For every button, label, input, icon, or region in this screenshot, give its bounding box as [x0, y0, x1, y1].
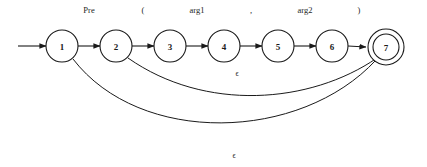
automaton-diagram: 1 2 3 4 5 6 7 Pre ( arg1: [0, 0, 427, 167]
state-label-3: 3: [168, 42, 173, 52]
state-node-1[interactable]: 1: [46, 30, 78, 62]
epsilon-edges: [73, 58, 377, 123]
state-label-6: 6: [330, 42, 335, 52]
state-label-5: 5: [276, 42, 281, 52]
transition-label-arg2: arg2: [298, 5, 313, 15]
transition-label-pre: Pre: [83, 5, 95, 15]
epsilon-labels: ϵ ϵ: [232, 69, 239, 160]
transition-label-comma: ,: [250, 5, 252, 15]
state-label-2: 2: [114, 42, 119, 52]
epsilon-label-2-7: ϵ: [235, 69, 239, 78]
state-node-7[interactable]: 7: [368, 29, 404, 65]
state-label-1: 1: [60, 42, 65, 52]
epsilon-edge-1-7: [73, 59, 376, 123]
state-node-3[interactable]: 3: [154, 30, 186, 62]
state-node-5[interactable]: 5: [262, 30, 294, 62]
state-node-6[interactable]: 6: [316, 30, 348, 62]
state-label-7: 7: [384, 43, 389, 53]
transition-labels: Pre ( arg1 , arg2 ): [83, 5, 360, 15]
state-node-4[interactable]: 4: [208, 30, 240, 62]
transition-label-open-paren: (: [142, 5, 145, 15]
state-nodes: 1 2 3 4 5 6 7: [46, 29, 404, 65]
transition-label-close-paren: ): [358, 5, 361, 15]
transition-label-arg1: arg1: [190, 5, 205, 15]
epsilon-label-1-7: ϵ: [232, 151, 236, 160]
transition-edge-6-7: [348, 46, 366, 47]
state-node-2[interactable]: 2: [100, 30, 132, 62]
state-label-4: 4: [222, 42, 227, 52]
